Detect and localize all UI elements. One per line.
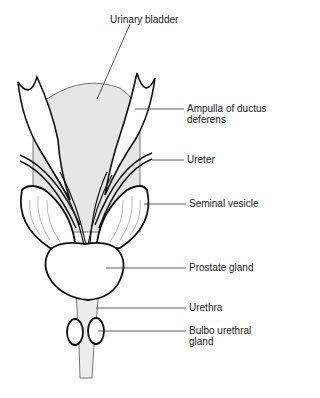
label-seminal-vesicle: Seminal vesicle: [189, 199, 258, 209]
label-ureter: Ureter: [187, 155, 215, 165]
label-ampulla-line2: deferens: [187, 115, 226, 125]
label-prostate-gland: Prostate gland: [189, 263, 254, 273]
prostate-gland-shape: [45, 243, 123, 300]
bulbo-urethral-gland-left: [67, 319, 83, 345]
label-ampulla: Ampulla of ductus: [187, 104, 267, 114]
label-bulbo-urethral-gland-line2: gland: [189, 337, 213, 347]
label-urinary-bladder: Urinary bladder: [110, 15, 178, 25]
label-bulbo-urethral-gland: Bulbo urethral: [189, 326, 251, 336]
label-urethra: Urethra: [189, 303, 222, 313]
